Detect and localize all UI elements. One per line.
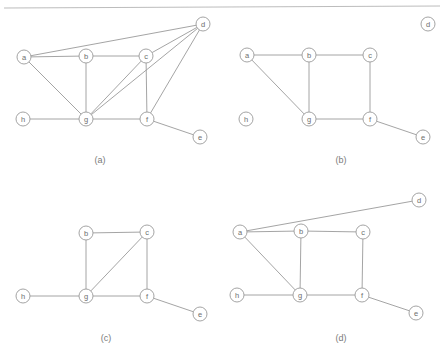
graph-node-b[interactable]: b	[302, 48, 316, 62]
graph-node-e[interactable]: e	[409, 306, 423, 320]
graph-edge-a-b	[31, 56, 79, 57]
node-label-e: e	[198, 133, 202, 142]
edge-group	[30, 232, 193, 312]
graph-node-b[interactable]: b	[79, 226, 93, 240]
graph-node-f[interactable]: f	[355, 288, 369, 302]
panel-a: abcdhgfe(a)	[16, 17, 210, 165]
edge-group	[252, 55, 417, 135]
node-label-c: c	[144, 52, 148, 61]
graph-edge-a-g	[252, 60, 304, 114]
graph-node-a[interactable]: a	[240, 48, 254, 62]
graph-node-e[interactable]: e	[193, 130, 207, 144]
graph-edge-f-e	[369, 297, 410, 311]
node-label-h: h	[244, 115, 248, 124]
node-label-b: b	[299, 227, 303, 236]
graph-edge-a-d	[31, 25, 196, 55]
node-label-c: c	[368, 51, 372, 60]
node-label-c: c	[361, 228, 365, 237]
graph-node-g[interactable]: g	[79, 112, 93, 126]
graph-edge-f-e	[154, 121, 194, 135]
node-label-c: c	[145, 228, 149, 237]
panel-caption-panel-c: (c)	[101, 333, 112, 343]
node-label-g: g	[307, 115, 311, 124]
graph-node-h[interactable]: h	[16, 112, 30, 126]
graph-node-e[interactable]: e	[193, 307, 207, 321]
node-label-d: d	[201, 20, 205, 29]
graph-edge-c-f	[362, 239, 363, 288]
node-label-e: e	[414, 309, 418, 318]
panel-caption-panel-a: (a)	[95, 155, 106, 165]
graph-edge-b-c	[308, 231, 356, 232]
graph-edge-f-e	[377, 121, 417, 135]
panel-caption-panel-d: (d)	[336, 333, 347, 343]
node-label-d: d	[417, 196, 421, 205]
node-label-h: h	[21, 292, 25, 301]
node-label-b: b	[84, 229, 88, 238]
node-label-e: e	[198, 310, 202, 319]
graph-node-g[interactable]: g	[79, 289, 93, 303]
edge-group	[244, 201, 412, 311]
graph-edge-f-e	[154, 298, 194, 312]
graph-edge-d-f	[151, 30, 200, 113]
top-divider-rule	[4, 6, 440, 8]
graph-node-d[interactable]: d	[412, 193, 426, 207]
graph-figure: abcdhgfe(a)abcdhgfe(b)bchgfe(c)abcdhgfe(…	[0, 0, 444, 363]
graph-node-a[interactable]: a	[233, 225, 247, 239]
graph-node-h[interactable]: h	[230, 288, 244, 302]
graph-node-d[interactable]: d	[196, 17, 210, 31]
edge-group	[29, 25, 200, 134]
node-label-b: b	[307, 51, 311, 60]
graph-edge-a-g	[245, 237, 295, 290]
graph-edge-c-d	[152, 27, 197, 52]
graph-node-c[interactable]: c	[356, 225, 370, 239]
panel-b: abcdhgfe(b)	[239, 17, 435, 165]
panel-d: abcdhgfe(d)	[230, 193, 426, 343]
node-label-e: e	[421, 133, 425, 142]
graph-node-b[interactable]: b	[294, 224, 308, 238]
graph-edge-b-c	[93, 232, 140, 233]
graph-node-a[interactable]: a	[17, 50, 31, 64]
graph-node-g[interactable]: g	[302, 112, 316, 126]
graph-node-f[interactable]: f	[140, 289, 154, 303]
node-label-g: g	[84, 115, 88, 124]
graph-node-e[interactable]: e	[416, 130, 430, 144]
node-label-g: g	[298, 291, 302, 300]
graph-node-h[interactable]: h	[16, 289, 30, 303]
graph-node-g[interactable]: g	[293, 288, 307, 302]
graph-edge-b-g	[300, 238, 301, 288]
node-label-b: b	[84, 52, 88, 61]
graph-edge-c-g	[91, 237, 142, 291]
node-label-d: d	[426, 20, 430, 29]
node-label-g: g	[84, 292, 88, 301]
graph-node-f[interactable]: f	[363, 112, 377, 126]
graph-edge-a-d	[247, 201, 412, 231]
graph-figure-canvas: abcdhgfe(a)abcdhgfe(b)bchgfe(c)abcdhgfe(…	[0, 0, 444, 363]
graph-edge-c-g	[91, 61, 141, 114]
node-label-h: h	[21, 115, 25, 124]
graph-node-c[interactable]: c	[139, 49, 153, 63]
graph-edge-a-b	[247, 231, 294, 232]
graph-node-c[interactable]: c	[363, 48, 377, 62]
panel-caption-panel-b: (b)	[336, 155, 347, 165]
graph-node-h[interactable]: h	[239, 112, 253, 126]
node-label-h: h	[235, 291, 239, 300]
graph-node-b[interactable]: b	[79, 49, 93, 63]
graph-node-f[interactable]: f	[140, 112, 154, 126]
panel-c: bchgfe(c)	[16, 225, 207, 343]
graph-node-c[interactable]: c	[140, 225, 154, 239]
graph-node-d[interactable]: d	[421, 17, 435, 31]
graph-edge-a-g	[29, 62, 81, 114]
